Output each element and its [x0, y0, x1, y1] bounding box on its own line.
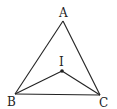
segment-ab [15, 21, 63, 94]
label-c: C [99, 96, 108, 109]
label-a: A [58, 6, 68, 20]
label-b: B [7, 95, 16, 109]
triangle-diagram: A B C I [0, 0, 117, 109]
label-i: I [59, 55, 64, 69]
point-i-dot [60, 69, 64, 73]
diagram-svg: A B C I [0, 0, 117, 109]
segment-bc [15, 94, 100, 95]
